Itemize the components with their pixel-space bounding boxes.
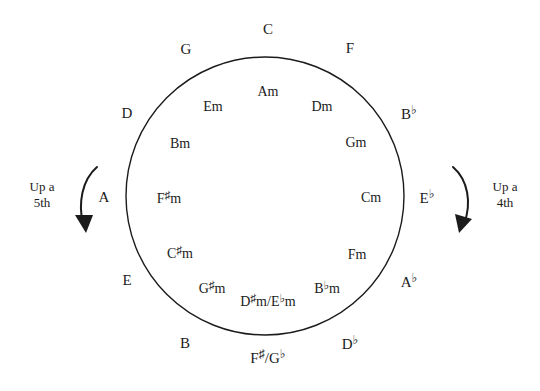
flat-symbol: ♭ [412, 271, 418, 285]
up-a-5th-arrow [75, 167, 97, 233]
sharp-symbol: ♯ [209, 279, 215, 291]
up-a-4th-arrow-curve [453, 167, 468, 224]
major-key-label: F♯/G♭ [250, 348, 285, 366]
minor-key-label: Fm [348, 248, 367, 262]
minor-key-label: D♯m/E♭m [240, 293, 296, 309]
minor-key-label: Gm [345, 136, 366, 150]
sharp-symbol: ♯ [165, 189, 171, 201]
up-a-5th-arrowhead [75, 215, 93, 233]
minor-key-label: Cm [361, 191, 381, 205]
minor-key-label: G♯m [199, 280, 226, 296]
major-key-label: B [180, 336, 190, 351]
major-key-label: F [346, 41, 354, 56]
minor-key-label: F♯m [157, 190, 181, 206]
direction-label-right: Up a4th [493, 179, 518, 212]
minor-key-label: Dm [311, 100, 332, 114]
minor-key-label: Bm [170, 137, 190, 151]
up-a-4th-arrow [453, 167, 472, 233]
flat-symbol: ♭ [429, 187, 435, 201]
major-key-label: D [122, 106, 133, 121]
direction-label-line2: 4th [493, 195, 518, 211]
diagram-canvas [0, 0, 540, 391]
direction-label-line2: 5th [30, 195, 55, 211]
direction-label-left: Up a5th [30, 179, 55, 212]
flat-symbol: ♭ [411, 103, 417, 117]
circle-of-fifths-diagram: CGDAEBF♯/G♭D♭A♭E♭B♭F AmEmBmF♯mC♯mG♯mD♯m/… [0, 0, 540, 391]
sharp-symbol: ♯ [250, 292, 256, 304]
minor-key-label: Am [257, 85, 278, 99]
sharp-symbol: ♯ [176, 244, 182, 256]
major-key-label: E [122, 273, 131, 288]
flat-symbol: ♭ [353, 333, 359, 347]
major-key-label: D♭ [342, 334, 359, 352]
minor-key-label: C♯m [167, 245, 193, 261]
direction-label-line1: Up a [30, 179, 55, 195]
major-key-label: A♭ [401, 272, 418, 290]
flat-symbol: ♭ [324, 279, 329, 291]
minor-key-label: B♭m [314, 280, 340, 296]
major-key-label: A [99, 190, 110, 205]
direction-label-line1: Up a [493, 179, 518, 195]
flat-symbol: ♭ [279, 292, 284, 304]
flat-symbol: ♭ [280, 347, 286, 361]
major-key-label: B♭ [401, 104, 417, 122]
major-key-label: G [181, 42, 192, 57]
minor-key-label: Em [203, 100, 222, 114]
major-key-label: E♭ [420, 188, 435, 206]
up-a-4th-arrowhead [455, 214, 472, 233]
major-key-label: C [263, 22, 273, 37]
sharp-symbol: ♯ [259, 347, 265, 361]
